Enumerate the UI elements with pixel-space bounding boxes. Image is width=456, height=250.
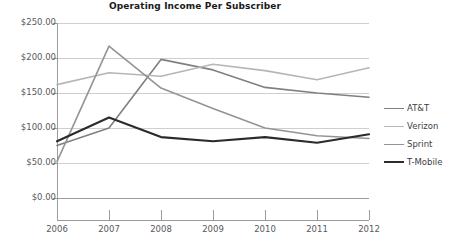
chart-legend: AT&TVerizonSprintT-Mobile [384, 99, 456, 171]
legend-line-swatch-icon [384, 108, 404, 109]
legend-item-verizon[interactable]: Verizon [384, 117, 456, 135]
legend-item-at-t[interactable]: AT&T [384, 99, 456, 117]
legend-item-label: Verizon [407, 121, 438, 131]
legend-item-sprint[interactable]: Sprint [384, 135, 456, 153]
legend-item-t-mobile[interactable]: T-Mobile [384, 153, 456, 171]
x-tick-label: 2008 [141, 224, 181, 234]
x-tick-label: 2009 [193, 224, 233, 234]
x-tick-label: 2011 [297, 224, 337, 234]
legend-line-swatch-icon [384, 144, 404, 145]
legend-item-label: Sprint [407, 139, 432, 149]
x-tick-label: 2010 [245, 224, 285, 234]
legend-line-swatch-icon [384, 161, 404, 163]
x-tick-label: 2007 [89, 224, 129, 234]
legend-item-label: T-Mobile [407, 157, 442, 167]
legend-line-swatch-icon [384, 126, 404, 127]
x-tick-label: 2006 [37, 224, 77, 234]
chart-container: Operating Income Per Subscriber $0.00$50… [0, 0, 456, 250]
legend-item-label: AT&T [407, 103, 429, 113]
x-tick-label: 2012 [349, 224, 389, 234]
